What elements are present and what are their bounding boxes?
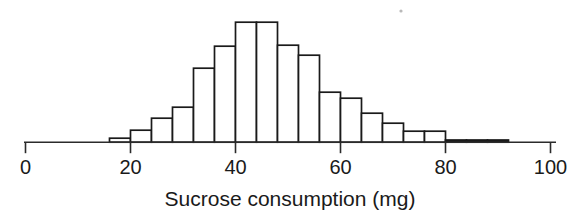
x-axis-tick-label: 0 [20, 156, 31, 178]
histogram-bars [110, 22, 509, 142]
x-axis-tick-labels: 020406080100 [20, 156, 567, 178]
histogram-bar [425, 131, 446, 142]
histogram-bar [131, 130, 152, 142]
histogram-bar [194, 68, 215, 142]
histogram-bar [299, 55, 320, 142]
x-axis-ticks [26, 142, 551, 153]
x-axis-tick-label: 20 [119, 156, 141, 178]
scan-speck [399, 9, 402, 12]
x-axis-title: Sucrose consumption (mg) [165, 187, 416, 210]
histogram-bar [320, 92, 341, 142]
histogram-bar [152, 118, 173, 142]
x-axis-tick-label: 100 [534, 156, 567, 178]
histogram-bar [236, 22, 257, 142]
x-axis-tick-label: 40 [224, 156, 246, 178]
x-axis [24, 142, 556, 153]
histogram-bar [362, 113, 383, 142]
x-axis-tick-label: 80 [434, 156, 456, 178]
histogram-svg: 020406080100 Sucrose consumption (mg) [0, 0, 580, 224]
histogram-bar [278, 45, 299, 142]
histogram-figure: 020406080100 Sucrose consumption (mg) [0, 0, 580, 224]
histogram-bar [404, 131, 425, 142]
x-axis-tick-label: 60 [329, 156, 351, 178]
histogram-bar [215, 46, 236, 142]
histogram-bar [257, 22, 278, 142]
histogram-bar [173, 107, 194, 142]
histogram-bar [383, 123, 404, 142]
histogram-bar [341, 98, 362, 142]
